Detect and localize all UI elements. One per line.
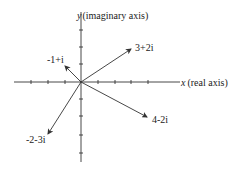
vector-3+2i-arrow bbox=[81, 49, 131, 82]
y-axis-label: y(imaginary axis) bbox=[76, 10, 148, 22]
vector-4-2i-label: 4-2i bbox=[152, 114, 168, 125]
vector-minus2-3i-arrow bbox=[48, 82, 81, 134]
vector-minus2-3i-label: -2-3i bbox=[26, 134, 46, 145]
vector-minus1+i-label: -1+i bbox=[47, 54, 64, 65]
vector-4-2i-arrow bbox=[81, 82, 147, 117]
x-axis-label: x(real axis) bbox=[180, 77, 228, 89]
complex-plane-diagram: y(imaginary axis) x(real axis) 3+2i -1+i… bbox=[0, 0, 239, 171]
vector-minus1+i-arrow bbox=[65, 66, 81, 82]
vector-3+2i-label: 3+2i bbox=[135, 42, 154, 53]
